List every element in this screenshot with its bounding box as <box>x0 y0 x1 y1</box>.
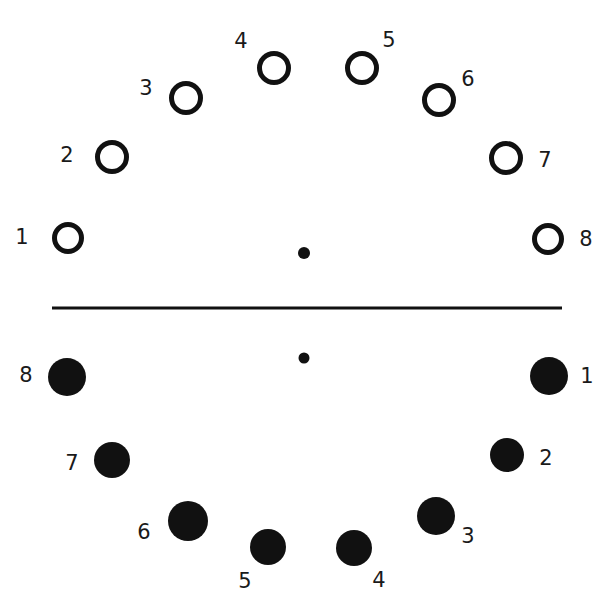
filled-circle-marker-7 <box>94 442 130 478</box>
figure-canvas: 12345678 12345678 <box>0 0 612 615</box>
filled-circle-marker-6 <box>168 501 208 541</box>
filled-circle-label-8: 8 <box>19 363 32 387</box>
filled-circle-label-4: 4 <box>372 568 385 592</box>
open-circle-label-1: 1 <box>15 225 28 249</box>
filled-circle-label-5: 5 <box>238 569 251 593</box>
open-circle-label-7: 7 <box>538 148 551 172</box>
upper-center-dot <box>298 247 310 259</box>
filled-circle-label-1: 1 <box>580 364 593 388</box>
open-circle-label-4: 4 <box>234 29 247 53</box>
filled-circle-label-7: 7 <box>65 451 78 475</box>
filled-circle-marker-1 <box>530 357 568 395</box>
open-circle-label-8: 8 <box>579 227 592 251</box>
filled-circle-marker-4 <box>336 530 372 566</box>
lower-center-dot <box>299 353 310 364</box>
diagram-svg: 12345678 12345678 <box>0 0 612 615</box>
filled-circle-label-6: 6 <box>137 520 150 544</box>
open-circle-label-6: 6 <box>461 67 474 91</box>
filled-circle-label-2: 2 <box>539 446 552 470</box>
filled-circle-marker-3 <box>417 497 455 535</box>
filled-circle-marker-5 <box>250 529 286 565</box>
filled-circle-label-3: 3 <box>461 524 474 548</box>
open-circle-label-2: 2 <box>60 143 73 167</box>
open-circle-label-3: 3 <box>139 76 152 100</box>
filled-circle-marker-8 <box>48 358 86 396</box>
open-circle-label-5: 5 <box>382 28 395 52</box>
filled-circle-marker-2 <box>490 438 524 472</box>
